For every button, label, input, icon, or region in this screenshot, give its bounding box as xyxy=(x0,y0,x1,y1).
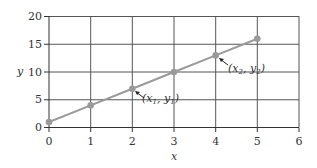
x-tick-4: 4 xyxy=(212,135,219,148)
x-axis-label: x xyxy=(171,150,178,163)
data-point xyxy=(46,119,53,126)
y-tick-labels: 20 15 10 5 0 xyxy=(28,10,42,134)
x-tick-0: 0 xyxy=(46,135,53,148)
line-chart: 20 15 10 5 0 0 1 2 3 4 5 6 x y (x1, y1) xyxy=(0,0,317,168)
y-tick-10: 10 xyxy=(28,66,42,79)
data-point xyxy=(129,85,136,92)
data-point xyxy=(87,102,94,109)
y-tick-0: 0 xyxy=(35,121,42,134)
y-tick-5: 5 xyxy=(35,93,42,106)
data-point xyxy=(212,52,219,59)
svg-text:(x2, y2): (x2, y2) xyxy=(228,62,265,76)
y-tick-20: 20 xyxy=(28,10,42,23)
x-tick-3: 3 xyxy=(171,135,178,148)
y-axis-label: y xyxy=(16,65,24,78)
data-line xyxy=(49,39,257,122)
annotation-point-2: (x2, y2) xyxy=(219,58,265,76)
x-tick-1: 1 xyxy=(87,135,94,148)
data-point xyxy=(254,35,261,42)
x-tick-2: 2 xyxy=(129,135,136,148)
x-tick-5: 5 xyxy=(254,135,261,148)
data-point xyxy=(171,69,178,76)
y-tick-15: 15 xyxy=(28,38,42,51)
x-tick-labels: 0 1 2 3 4 5 6 xyxy=(46,135,303,148)
svg-text:(x1, y1): (x1, y1) xyxy=(142,92,179,106)
x-tick-6: 6 xyxy=(296,135,303,148)
annotation-point-1: (x1, y1) xyxy=(135,91,179,106)
